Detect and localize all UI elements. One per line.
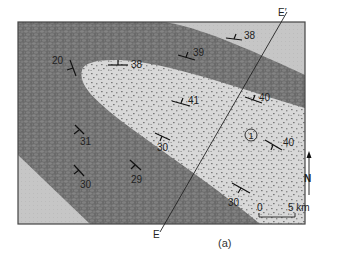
scale-start-label: 0 [257, 202, 263, 213]
dip-label: 31 [80, 136, 92, 147]
dip-label: 30 [228, 197, 240, 208]
dip-label: 20 [52, 55, 64, 66]
dip-label: 40 [259, 92, 271, 103]
figure-caption: (a) [218, 237, 231, 249]
section-end-label: E′ [278, 7, 287, 18]
dip-label: 29 [131, 174, 143, 185]
dip-label: 39 [193, 47, 205, 58]
geologic-map: E E′ 20 38 39 38 40 41 31 30 40 30 29 30… [0, 0, 337, 260]
north-label: N [304, 173, 311, 184]
dip-label: 30 [157, 142, 169, 153]
dip-label: 38 [244, 30, 256, 41]
scale-end-label: 5 km [288, 202, 310, 213]
section-start-label: E [153, 229, 160, 240]
dip-label: 41 [188, 95, 200, 106]
unit-label: 1 [249, 131, 254, 141]
dip-label: 30 [80, 179, 92, 190]
dip-label: 38 [131, 59, 143, 70]
dip-label: 40 [283, 137, 295, 148]
